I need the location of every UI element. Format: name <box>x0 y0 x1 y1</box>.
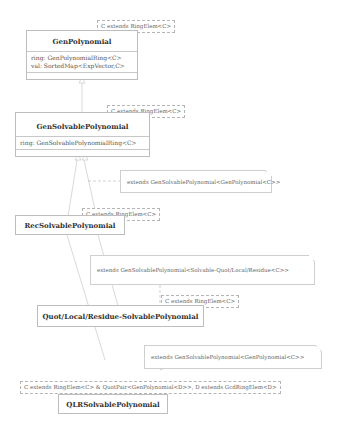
class-quot-local-residue-solvable-polynomial[interactable]: Quot/Local/Residue-SolvablePolynomial <box>37 305 204 327</box>
note-text: extends GenSolvablePolynomial<GenPolynom… <box>151 354 304 360</box>
class-gen-polynomial[interactable]: GenPolynomial ring: GenPolynomialRing<C>… <box>26 30 138 80</box>
class-name: Quot/Local/Residue-SolvablePolynomial <box>38 306 203 327</box>
class-name: RecSolvablePolynomial <box>16 216 124 235</box>
class-name: GenSolvablePolynomial <box>16 113 149 136</box>
class-name: QLRSolvablePolynomial <box>59 395 167 414</box>
attribute: ring: GenSolvablePolynomialRing<C> <box>20 139 145 147</box>
class-name: GenPolynomial <box>27 31 137 51</box>
note-text: extends GenSolvablePolynomial<Solvable-Q… <box>97 267 289 273</box>
attribute: val: SortedMap<ExpVector,C> <box>31 62 133 70</box>
note-rec-extends: extends GenSolvablePolynomial<GenPolynom… <box>120 170 272 193</box>
note-fold-icon <box>315 345 322 352</box>
note-text: extends GenSolvablePolynomial<GenPolynom… <box>127 179 280 185</box>
note-fold-icon <box>308 255 315 262</box>
note-fold-icon <box>265 170 272 177</box>
attribute: ring: GenPolynomialRing<C> <box>31 54 133 62</box>
class-attributes: ring: GenSolvablePolynomialRing<C> <box>16 136 149 149</box>
class-gen-solvable-polynomial[interactable]: GenSolvablePolynomial ring: GenSolvableP… <box>15 112 150 157</box>
class-operations <box>27 72 137 79</box>
note-qlr-generic-extends: extends GenSolvablePolynomial<Solvable-Q… <box>90 255 315 285</box>
class-rec-solvable-polynomial[interactable]: RecSolvablePolynomial <box>15 215 125 235</box>
class-attributes: ring: GenPolynomialRing<C> val: SortedMa… <box>27 51 137 72</box>
class-operations <box>16 149 149 156</box>
class-qlr-solvable-polynomial[interactable]: QLRSolvablePolynomial <box>58 394 168 414</box>
note-qlr-extends: extends GenSolvablePolynomial<GenPolynom… <box>144 345 322 369</box>
type-param-qlr-solvable-polynomial: C extends RingElem<C> & QuotPair<GenPoly… <box>20 381 281 394</box>
